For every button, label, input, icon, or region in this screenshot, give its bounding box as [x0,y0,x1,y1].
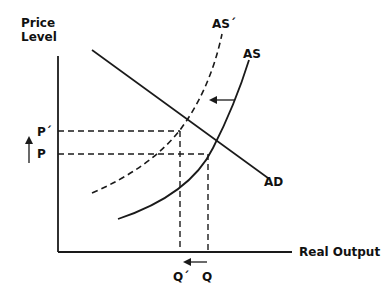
as-shifted-label: AS´ [212,18,236,31]
as-shifted-curve [92,34,222,193]
ad-curve [92,50,268,178]
p-label: P [37,148,46,161]
y-axis-label-price: Price [21,17,55,30]
q-shifted-label: Q´ [173,271,189,284]
q-label: Q [202,271,212,284]
ad-label: AD [264,176,283,189]
as-label: AS [243,48,261,61]
y-axis-label-level: Level [21,31,57,44]
p-shifted-label: P´ [37,126,52,139]
x-axis-label: Real Output [299,246,380,259]
